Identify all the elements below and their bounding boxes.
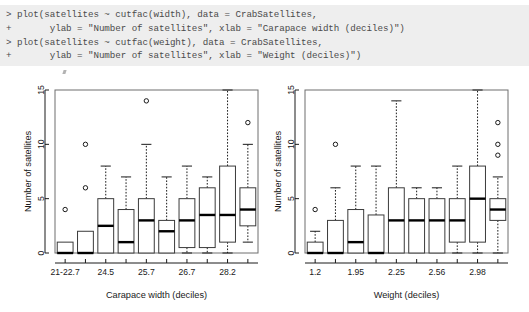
console-line-4: + ylab = "Number of satellites", xlab = … — [6, 49, 523, 63]
outlier-point — [496, 153, 500, 157]
box-iqr — [307, 242, 323, 253]
outlier-point — [496, 120, 500, 124]
y-axis-tick-label: 10 — [36, 139, 46, 149]
y-axis-title: Number of satellites — [273, 131, 283, 213]
boxplot-box — [159, 177, 175, 253]
y-axis-title: Number of satellites — [23, 131, 33, 213]
boxplot-box — [409, 188, 425, 253]
x-axis-tick-label: 28.2 — [219, 267, 236, 277]
console-line-3: > plot(satellites ~ cutfac(weight), data… — [6, 36, 523, 50]
boxplot-box — [199, 177, 215, 253]
outlier-point — [496, 142, 500, 146]
console-line-1: > plot(satellites ~ cutfac(width), data … — [6, 8, 523, 22]
outlier-point — [313, 207, 317, 211]
box-iqr — [470, 166, 486, 242]
boxplot-box — [368, 166, 384, 253]
boxplot-box — [388, 101, 404, 253]
y-axis-tick-label: 0 — [286, 250, 296, 255]
outlier-point — [63, 207, 67, 211]
boxplot-box — [429, 188, 445, 253]
boxplot-box — [179, 166, 195, 253]
x-axis-title: Carapace width (deciles) — [106, 290, 207, 300]
y-axis-tick-label: 5 — [286, 196, 296, 201]
console-line-2: + ylab = "Number of satellites", xlab = … — [6, 22, 523, 36]
y-axis-tick-label: 10 — [286, 139, 296, 149]
x-axis-tick-label: 1.2 — [309, 267, 321, 277]
boxplot-box — [449, 166, 465, 253]
box-iqr — [328, 220, 344, 253]
x-axis-tick-label: 26.7 — [179, 267, 196, 277]
y-axis-tick-label: 0 — [36, 250, 46, 255]
outlier-point — [333, 142, 337, 146]
x-axis-tick-label: 2.56 — [429, 267, 446, 277]
boxplot-box — [98, 166, 114, 253]
outlier-point — [83, 186, 87, 190]
box-iqr — [429, 199, 445, 253]
x-axis-tick-label: 1.95 — [347, 267, 364, 277]
boxplot-box — [78, 142, 94, 253]
box-iqr — [240, 188, 256, 226]
outlier-point — [246, 120, 250, 124]
boxplot-box — [220, 90, 236, 253]
box-iqr — [409, 199, 425, 253]
x-axis-title: Weight (deciles) — [374, 290, 440, 300]
box-iqr — [199, 188, 215, 248]
box-iqr — [368, 215, 384, 253]
x-axis-tick-label: 2.98 — [469, 267, 486, 277]
boxplot-box — [490, 120, 506, 253]
weight-boxplot: 051015Number of satellites1.21.952.252.5… — [273, 85, 508, 300]
box-iqr — [118, 210, 134, 253]
boxplot-figures: 051015Number of satellites21-22.724.525.… — [0, 80, 529, 312]
carapace-width-boxplot: 051015Number of satellites21-22.724.525.… — [23, 85, 258, 300]
boxplot-box — [240, 120, 256, 242]
x-axis-tick-label: 2.25 — [388, 267, 405, 277]
x-axis-tick-label: 25.7 — [138, 267, 155, 277]
y-axis-tick-label: 5 — [36, 196, 46, 201]
box-iqr — [57, 242, 73, 253]
box-iqr — [159, 220, 175, 253]
outlier-point — [144, 99, 148, 103]
r-console-output: > plot(satellites ~ cutfac(width), data … — [0, 5, 529, 66]
boxplot-box — [470, 90, 486, 253]
boxplot-box — [348, 166, 364, 253]
box-iqr — [220, 166, 236, 242]
x-axis-tick-label: 24.5 — [97, 267, 114, 277]
boxplot-box — [57, 207, 73, 253]
y-axis-tick-label: 15 — [286, 85, 296, 95]
outlier-point — [83, 142, 87, 146]
plot-panel-container: 051015Number of satellites21-22.724.525.… — [0, 80, 529, 312]
box-iqr — [78, 231, 94, 253]
stray-artifact-mark — [62, 70, 66, 74]
box-iqr — [138, 199, 154, 253]
y-axis-tick-label: 15 — [36, 85, 46, 95]
boxplot-box — [118, 177, 134, 253]
box-iqr — [179, 199, 195, 248]
boxplot-box — [138, 99, 154, 253]
x-axis-tick-label: 21-22.7 — [51, 267, 80, 277]
boxplot-box — [328, 142, 344, 253]
box-iqr — [348, 210, 364, 253]
boxplot-box — [307, 207, 323, 253]
